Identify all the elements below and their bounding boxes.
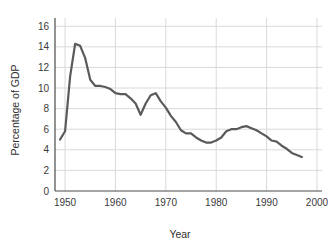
- x-tick-label: 1950: [54, 197, 77, 208]
- x-tick-label: 1970: [155, 197, 178, 208]
- y-tick-label: 12: [38, 62, 50, 73]
- y-tick-label: 0: [43, 186, 49, 197]
- line-chart: 0246810121416 195019601970198019902000 Y…: [0, 0, 328, 247]
- axis-lines: [55, 18, 322, 191]
- y-tick-label: 14: [38, 41, 50, 52]
- y-tick-label: 8: [43, 103, 49, 114]
- y-axis-title: Percentage of GDP: [9, 64, 21, 155]
- x-tick-label: 2000: [306, 197, 328, 208]
- y-tick-label: 4: [43, 144, 49, 155]
- x-axis-title: Year: [169, 228, 191, 240]
- data-series-line: [60, 44, 302, 157]
- y-axis-tick-labels: 0246810121416: [38, 21, 50, 197]
- y-tick-label: 6: [43, 124, 49, 135]
- x-tick-label: 1980: [205, 197, 228, 208]
- y-tick-label: 2: [43, 165, 49, 176]
- y-tick-label: 16: [38, 21, 50, 32]
- x-axis-tick-labels: 195019601970198019902000: [54, 197, 328, 208]
- gridlines: [55, 18, 322, 191]
- x-tick-label: 1990: [255, 197, 278, 208]
- chart-container: 0246810121416 195019601970198019902000 Y…: [0, 0, 328, 247]
- y-tick-label: 10: [38, 83, 50, 94]
- x-tick-label: 1960: [104, 197, 127, 208]
